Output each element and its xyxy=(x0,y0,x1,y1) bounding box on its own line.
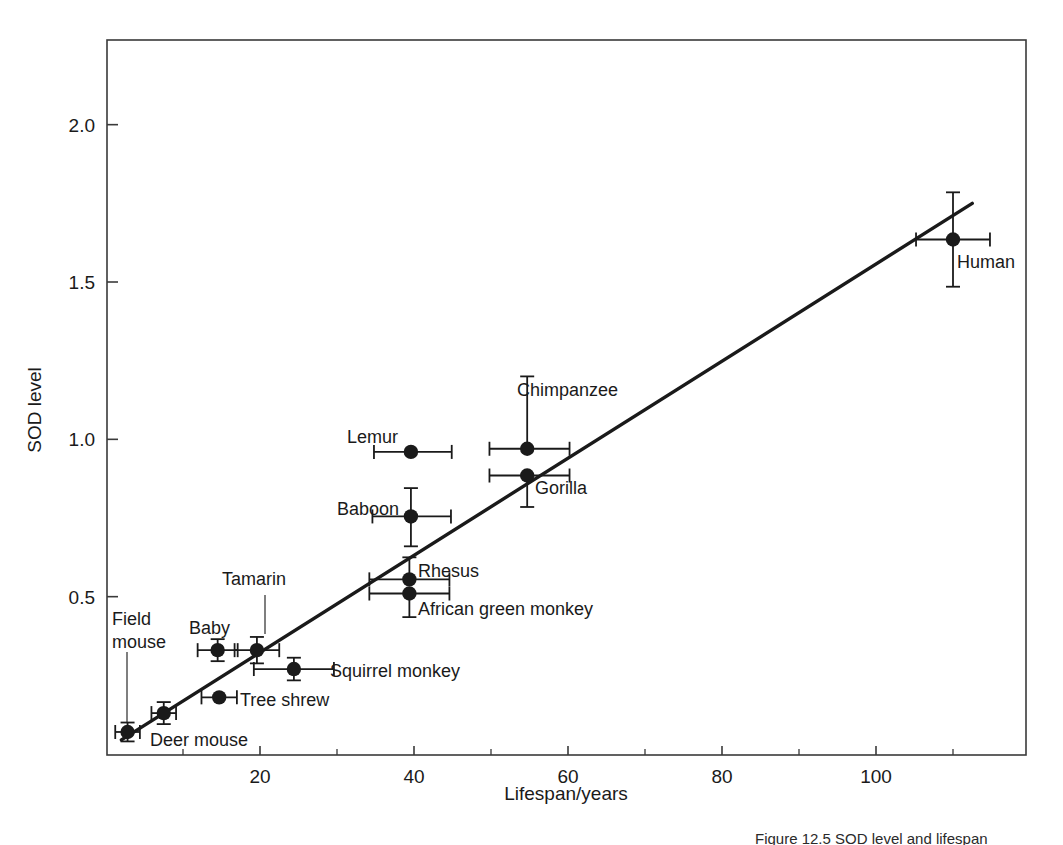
label-baby: Baby xyxy=(189,618,230,638)
label-gorilla: Gorilla xyxy=(535,478,588,498)
x-tick-label: 20 xyxy=(249,766,270,787)
data-point-lemur[interactable] xyxy=(404,445,418,459)
y-tick-label: 2.0 xyxy=(69,115,95,136)
x-tick-label: 80 xyxy=(711,766,732,787)
label-squirrel-monkey: Squirrel monkey xyxy=(330,661,460,681)
y-axis-title: SOD level xyxy=(24,367,45,453)
data-point-tamarin[interactable] xyxy=(250,643,264,657)
data-point-baby[interactable] xyxy=(210,643,224,657)
label-rhesus: Rhesus xyxy=(418,561,479,581)
figure-caption: Figure 12.5 SOD level and lifespan xyxy=(755,829,1055,845)
data-point-baboon[interactable] xyxy=(404,509,418,523)
y-tick-label: 0.5 xyxy=(69,587,95,608)
label-field-mouse: Fieldmouse xyxy=(112,609,166,652)
y-tick-label: 1.0 xyxy=(69,429,95,450)
data-point-african-green-monkey[interactable] xyxy=(402,586,416,600)
y-tick-label: 1.5 xyxy=(69,272,95,293)
label-lemur: Lemur xyxy=(347,427,398,447)
y-axis-tick-labels: 0.51.01.52.0 xyxy=(69,115,95,608)
label-baboon: Baboon xyxy=(337,499,399,519)
label-tree-shrew: Tree shrew xyxy=(240,690,330,710)
data-point-deer-mouse[interactable] xyxy=(120,725,134,739)
data-point-rhesus[interactable] xyxy=(402,572,416,586)
data-point-field-mouse[interactable] xyxy=(157,706,171,720)
label-african-green-monkey: African green monkey xyxy=(418,599,593,619)
data-point-chimpanzee[interactable] xyxy=(520,442,534,456)
x-tick-label: 40 xyxy=(403,766,424,787)
x-axis-ticks xyxy=(183,746,953,755)
data-point-gorilla[interactable] xyxy=(520,468,534,482)
data-point-tree-shrew[interactable] xyxy=(212,690,226,704)
data-point-human[interactable] xyxy=(946,232,960,246)
label-chimpanzee: Chimpanzee xyxy=(517,380,618,400)
regression-line-segment xyxy=(121,203,972,740)
data-point-labels: Deer mouseFieldmouseTree shrewBabyTamari… xyxy=(112,252,1015,750)
y-axis-ticks xyxy=(107,125,118,597)
regression-line xyxy=(121,203,972,740)
label-deer-mouse: Deer mouse xyxy=(150,730,248,750)
sod-lifespan-scatter-plot: 20406080100 0.51.01.52.0 Deer mouseField… xyxy=(0,0,1063,845)
data-point-squirrel-monkey[interactable] xyxy=(287,662,301,676)
label-human: Human xyxy=(957,252,1015,272)
label-tamarin: Tamarin xyxy=(222,569,286,589)
figure-container: 20406080100 0.51.01.52.0 Deer mouseField… xyxy=(0,0,1063,845)
x-axis-title: Lifespan/years xyxy=(504,783,628,804)
x-tick-label: 100 xyxy=(860,766,892,787)
